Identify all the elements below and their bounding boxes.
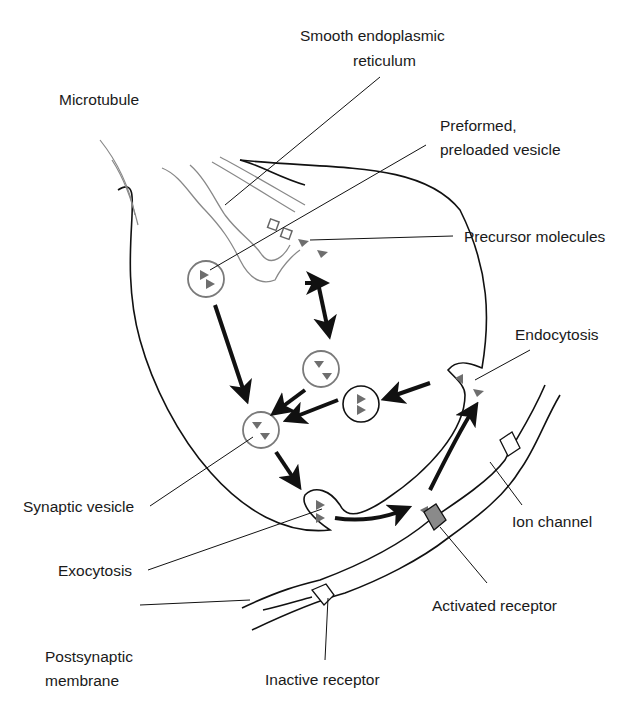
label-precursor: Precursor molecules	[464, 228, 605, 246]
vesicle-preformed	[188, 261, 224, 297]
synaptic-vesicle	[243, 412, 279, 448]
vesicle-recycled	[343, 386, 379, 422]
label-inactive-receptor: Inactive receptor	[265, 671, 380, 689]
label-activated-receptor: Activated receptor	[432, 597, 557, 615]
label-postsynaptic-2: membrane	[45, 672, 119, 690]
label-microtubule: Microtubule	[59, 91, 139, 109]
label-ion-channel: Ion channel	[512, 513, 592, 531]
vesicle-new	[303, 351, 339, 387]
label-preformed-2: preloaded vesicle	[440, 141, 561, 159]
label-smooth-er-1: Smooth endoplasmic	[300, 27, 445, 45]
label-synaptic-vesicle: Synaptic vesicle	[23, 498, 134, 516]
inactive-receptor	[312, 584, 334, 605]
axon-terminal-outline	[118, 160, 487, 531]
label-exocytosis: Exocytosis	[58, 562, 132, 580]
smooth-er	[162, 168, 300, 282]
label-endocytosis: Endocytosis	[515, 326, 599, 344]
microtubule	[100, 140, 135, 215]
ion-channel	[500, 432, 520, 456]
label-postsynaptic-1: Postsynaptic	[45, 648, 133, 666]
label-preformed-1: Preformed,	[440, 117, 517, 135]
label-smooth-er-2: reticulum	[353, 52, 416, 70]
